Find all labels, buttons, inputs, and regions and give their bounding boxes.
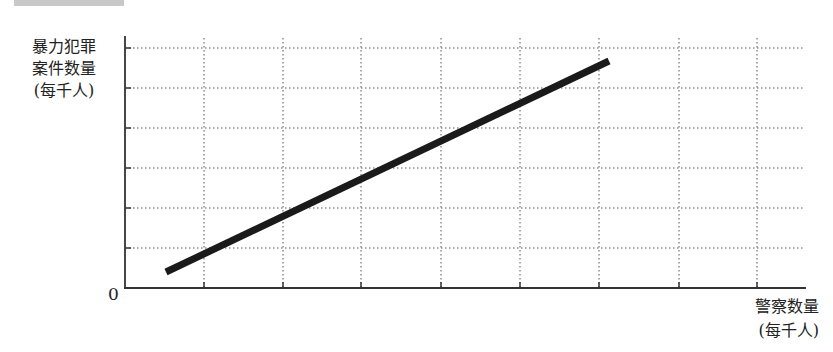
horizontal-gridlines — [125, 48, 805, 248]
x-label-line-1: 警察数量 — [719, 295, 819, 319]
chart-plot-area — [0, 0, 833, 352]
data-line — [166, 61, 609, 272]
x-label-line-2: (每千人) — [719, 319, 819, 343]
vertical-gridlines — [204, 38, 757, 288]
origin-label: 0 — [108, 284, 119, 304]
x-axis-label: 警察数量 (每千人) — [719, 295, 819, 343]
